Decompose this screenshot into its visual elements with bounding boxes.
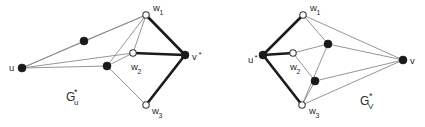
left-graph-bold-edges: [133, 15, 185, 105]
node-label-left-v: v: [192, 51, 197, 62]
node-label-sub-right-w1: 1: [317, 9, 321, 16]
node-right-w3: [299, 102, 305, 108]
right-graph-node-labels: u*w1w2w3v: [248, 2, 415, 119]
node-label-sub-right-w3: 3: [316, 112, 320, 119]
graph-figure-svg: uw1w2w3v* G u * u*w1w2w3v G V *: [0, 0, 425, 127]
node-right-w1: [300, 12, 306, 18]
edge-bold-right-u-w1: [263, 15, 303, 55]
left-caption-subscript: u: [74, 98, 78, 107]
right-graph-caption: G V *: [360, 91, 374, 111]
edge-right-w1-b1: [303, 15, 328, 44]
edge-left-a2-w1: [107, 15, 146, 66]
edge-right-b2-v: [315, 60, 403, 81]
edge-bold-right-u-w2: [263, 53, 293, 55]
node-label-sub-right-w2: 2: [297, 68, 301, 75]
node-left-w2: [130, 50, 136, 56]
right-caption-subscript: V: [368, 102, 374, 111]
node-label-sub-left-w1: 1: [160, 9, 164, 16]
node-label-star-right-u: *: [255, 53, 258, 62]
figure-container: uw1w2w3v* G u * u*w1w2w3v G V *: [0, 0, 425, 127]
left-graph-caption: G u *: [66, 87, 78, 107]
node-label-sub-left-w3: 3: [159, 112, 163, 119]
right-graph: u*w1w2w3v G V *: [248, 2, 415, 119]
edge-bold-left-w1-v: [146, 15, 185, 55]
edge-left-a1-w1: [84, 15, 146, 41]
node-right-b2: [311, 77, 319, 85]
left-caption-star: *: [74, 87, 78, 97]
left-graph-nodes: [18, 12, 189, 108]
edge-right-b1-v: [328, 44, 403, 60]
edge-right-w3-b1: [302, 44, 328, 105]
edge-bold-left-w3-v: [146, 55, 185, 105]
right-graph-thin-edges: [293, 15, 403, 105]
left-graph-thin-edges: [22, 15, 146, 105]
node-left-a2: [103, 62, 111, 70]
node-label-right-v: v: [410, 55, 415, 66]
node-left-w1: [143, 12, 149, 18]
node-left-u: [18, 64, 26, 72]
node-label-right-u: u: [248, 54, 253, 65]
left-graph-node-labels: uw1w2w3v*: [9, 2, 202, 119]
right-caption-star: *: [369, 91, 373, 101]
node-label-sub-left-w2: 2: [138, 68, 142, 75]
left-graph: uw1w2w3v* G u *: [9, 2, 202, 119]
node-left-w3: [143, 102, 149, 108]
node-label-star-left-v: *: [199, 50, 202, 59]
node-left-v: [181, 51, 189, 59]
node-right-v: [399, 56, 407, 64]
node-right-w2: [290, 50, 296, 56]
right-graph-nodes: [259, 12, 407, 108]
node-left-a1: [80, 37, 88, 45]
edge-right-w2-b1: [293, 44, 328, 53]
node-label-left-u: u: [9, 62, 14, 73]
node-right-b1: [324, 40, 332, 48]
node-right-u: [259, 51, 267, 59]
edge-right-w1-v: [303, 15, 403, 60]
right-graph-bold-edges: [263, 15, 303, 105]
edge-left-w1-w2: [133, 15, 146, 53]
edge-bold-left-w2-v: [133, 53, 185, 55]
